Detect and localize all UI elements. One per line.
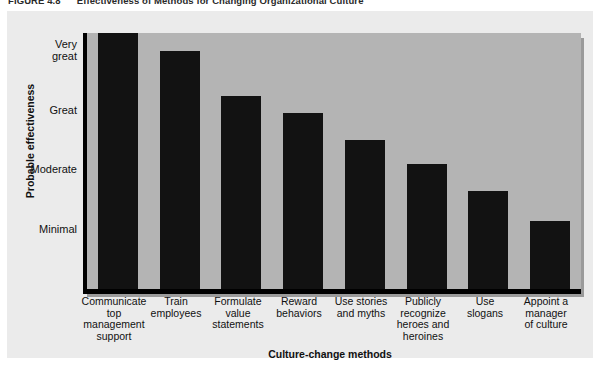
x-tick-line: Formulate — [203, 296, 273, 308]
x-tick-line: slogans — [450, 308, 520, 320]
bar-series — [87, 33, 581, 289]
y-tick-line: Minimal — [0, 224, 77, 236]
x-tick-label: Trainemployees — [141, 296, 211, 319]
figure-panel: Probable effectiveness VerygreatGreatMod… — [7, 11, 593, 358]
bar — [468, 191, 508, 289]
y-tick-label: Minimal — [0, 224, 77, 236]
x-tick-label: Rewardbehaviors — [264, 296, 334, 319]
x-tick-label: Appoint amanagerof culture — [511, 296, 581, 331]
x-tick-label: Publiclyrecognizeheroes andheroines — [388, 296, 458, 342]
figure-caption: FIGURE 4.8Effectiveness of Methods for C… — [8, 0, 593, 7]
y-tick-line: Moderate — [0, 164, 77, 176]
x-tick-line: statements — [203, 319, 273, 331]
figure-number: FIGURE 4.8 — [8, 0, 61, 6]
x-tick-line: Appoint a — [511, 296, 581, 308]
bar — [407, 164, 447, 289]
x-tick-line: Communicate — [79, 296, 149, 308]
x-tick-line: of culture — [511, 319, 581, 331]
bar — [283, 113, 323, 289]
figure-caption-text: Effectiveness of Methods for Changing Or… — [77, 0, 364, 6]
x-tick-line: support — [79, 331, 149, 343]
figure-root: FIGURE 4.8Effectiveness of Methods for C… — [0, 0, 601, 368]
y-axis-tick-labels: VerygreatGreatModerateMinimal — [7, 11, 77, 301]
x-axis-title: Culture-change methods — [83, 348, 577, 360]
x-tick-line: employees — [141, 308, 211, 320]
plot-area — [83, 33, 581, 294]
x-tick-line: and myths — [326, 308, 396, 320]
x-tick-line: Use stories — [326, 296, 396, 308]
bar — [160, 51, 200, 289]
y-tick-label: Verygreat — [0, 39, 77, 62]
bar — [98, 33, 138, 289]
y-tick-label: Moderate — [0, 164, 77, 176]
x-tick-line: Reward — [264, 296, 334, 308]
bar — [345, 140, 385, 289]
x-tick-line: Train — [141, 296, 211, 308]
y-tick-label: Great — [0, 105, 77, 117]
x-tick-line: Publicly — [388, 296, 458, 308]
y-tick-line: Great — [0, 105, 77, 117]
x-tick-label: Use storiesand myths — [326, 296, 396, 319]
x-tick-label: Communicatetopmanagementsupport — [79, 296, 149, 342]
x-tick-line: Use — [450, 296, 520, 308]
x-tick-label: Useslogans — [450, 296, 520, 319]
x-tick-line: behaviors — [264, 308, 334, 320]
bar — [221, 96, 261, 289]
x-tick-label: Formulatevaluestatements — [203, 296, 273, 331]
x-tick-line: heroines — [388, 331, 458, 343]
bar — [530, 221, 570, 289]
y-tick-line: great — [0, 51, 77, 63]
